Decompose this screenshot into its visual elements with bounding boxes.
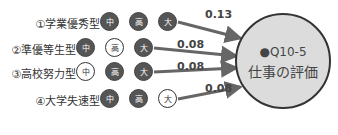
- arrow-1: [178, 22, 240, 38]
- node-4-1: 中: [100, 89, 119, 108]
- row-label-1: ①学業優秀型: [35, 15, 100, 31]
- node-4-2: 高: [129, 89, 148, 108]
- node-1-3: 大: [158, 12, 177, 31]
- coef-1: 0.13: [205, 8, 232, 21]
- node-2-2: 高: [105, 38, 124, 57]
- node-2-1: 中: [76, 38, 95, 57]
- target-node: ●Q10-5 仕事の評価: [235, 13, 331, 109]
- row-label-3: ③高校努力型: [11, 65, 76, 81]
- node-3-1: 中: [76, 62, 95, 81]
- node-1-2: 高: [129, 12, 148, 31]
- target-label: 仕事の評価: [237, 61, 329, 81]
- node-4-3: 大: [158, 89, 177, 108]
- coef-3: 0.08: [177, 60, 204, 73]
- node-3-2: 高: [105, 62, 124, 81]
- target-id: ●Q10-5: [237, 45, 329, 59]
- path-diagram: ①学業優秀型 中 高 大 0.13 ②準優等生型 中 高 大 0.08 ③高校努…: [0, 0, 338, 135]
- coef-4: 0.08: [205, 82, 232, 95]
- node-1-1: 中: [100, 12, 119, 31]
- row-label-2: ②準優等生型: [11, 41, 76, 57]
- row-label-4: ④大学失速型: [35, 92, 100, 108]
- coef-2: 0.08: [177, 38, 204, 51]
- node-2-3: 大: [134, 38, 153, 57]
- node-3-3: 大: [134, 62, 153, 81]
